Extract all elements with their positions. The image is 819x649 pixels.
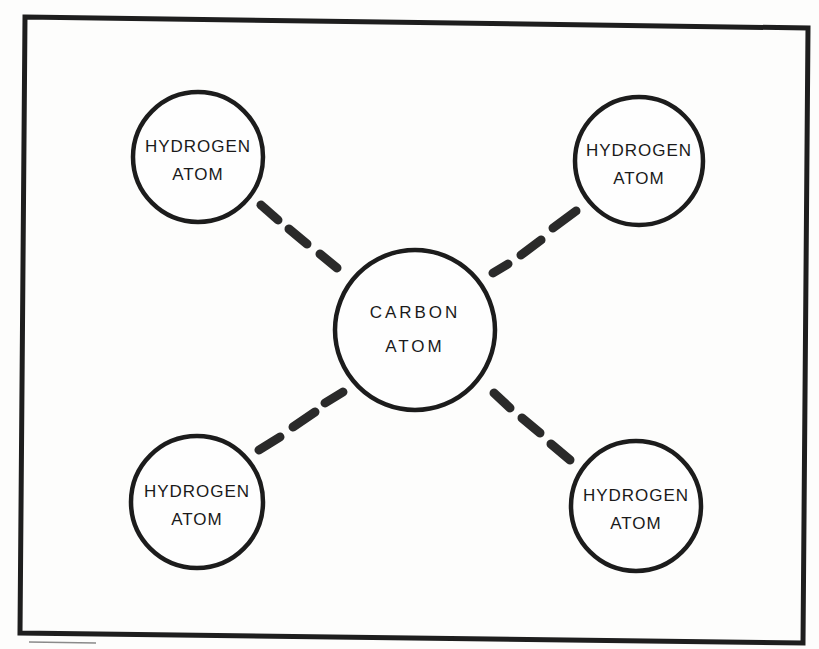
bond-dash [493,264,508,273]
bond-dash [293,412,315,427]
bond-dash [521,240,541,255]
bond-top-left [261,205,337,268]
hydrogen-top-right: HYDROGENATOM [575,97,703,225]
hydrogen-atom-label-line1: HYDROGEN [583,486,689,505]
bond-dash [259,437,280,450]
hydrogen-atom-label-line1: HYDROGEN [586,141,692,160]
hydrogen-atom-label-line2: ATOM [610,514,662,533]
hydrogen-atom-circle [571,441,701,571]
hydrogen-bottom-right: HYDROGENATOM [571,441,701,571]
hydrogen-atom-label-line2: ATOM [171,510,223,529]
bond-dash [494,393,510,408]
hydrogen-atom-circle [131,436,263,568]
carbon-atom-label-line2: ATOM [385,337,445,356]
hydrogen-atom-label-line2: ATOM [172,165,224,184]
hydrogen-bottom-left: HYDROGENATOM [131,436,263,568]
carbon-atom-label-line1: CARBON [370,303,461,322]
bond-bottom-right [494,393,570,460]
bond-bottom-left [259,392,343,450]
bond-dash [553,211,576,228]
bond-dash [261,205,278,220]
methane-diagram: HYDROGENATOMHYDROGENATOMHYDROGENATOMHYDR… [0,0,819,649]
hydrogen-atom-label-line1: HYDROGEN [145,137,251,156]
hydrogen-atom-circle [575,97,703,225]
hydrogen-top-left: HYDROGENATOM [133,92,263,222]
hydrogen-atom-label-line1: HYDROGEN [144,482,250,501]
bond-dash [325,392,343,403]
carbon-atom: CARBON ATOM [335,250,495,410]
hydrogen-atom-label-line2: ATOM [613,169,665,188]
bond-dash [551,444,570,460]
bond-top-right [493,211,576,273]
scan-underline-mark [29,642,96,643]
bond-dash [522,418,540,433]
hydrogen-atom-circle [133,92,263,222]
bond-dash [320,254,337,268]
bond-dash [289,229,307,244]
carbon-atom-circle [335,250,495,410]
